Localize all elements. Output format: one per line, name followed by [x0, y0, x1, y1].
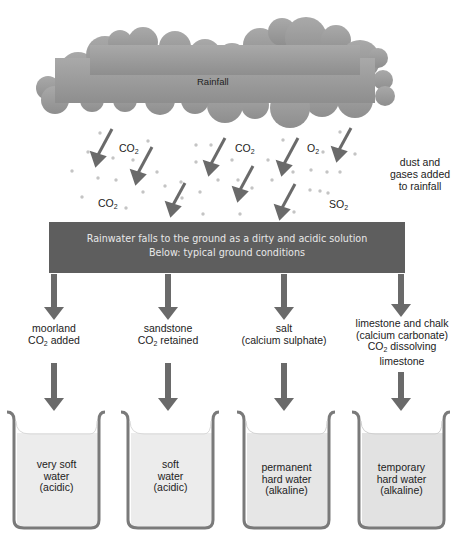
side-note: dust and gases added to rainfall — [380, 156, 458, 192]
ground-label-line: sandstone — [128, 322, 208, 334]
cloud-label: Rainfall — [197, 76, 229, 87]
beaker-label-line: (alkaline) — [244, 485, 329, 497]
ground-label-line: limestone and chalk — [346, 318, 458, 330]
beaker-label-line: very soft — [14, 459, 99, 471]
ground-label-line: CO2 retained — [128, 334, 208, 350]
beaker-label-line: temporary — [359, 462, 444, 474]
ground-label-line: moorland — [14, 322, 94, 334]
ground-label-line: CO2 dissolving — [346, 341, 458, 356]
ground-label-limestone: limestone and chalk (calcium carbonate) … — [346, 318, 458, 367]
ground-label-line: (calcium sulphate) — [234, 334, 334, 346]
gas-label-o2: O2 — [307, 142, 319, 155]
beaker-label-soft: soft water (acidic) — [128, 459, 213, 494]
beaker-label-line: (alkaline) — [359, 485, 444, 497]
ground-label-moorland: moorland CO2 added — [14, 322, 94, 350]
gas-label-co2-1: CO2 — [119, 142, 139, 155]
side-note-line: to rainfall — [380, 180, 458, 192]
ground-label-line: salt — [234, 322, 334, 334]
side-note-line: gases added — [380, 168, 458, 180]
beaker-label-line: soft — [128, 459, 213, 471]
beaker-label-line: permanent — [244, 462, 329, 474]
gas-label-co2-3: CO2 — [98, 197, 118, 210]
ground-label-salt: salt (calcium sulphate) — [234, 322, 334, 346]
beaker-label-permanent-hard: permanent hard water (alkaline) — [244, 462, 329, 497]
gas-label-so2: SO2 — [329, 198, 348, 211]
beaker-label-temporary-hard: temporary hard water (alkaline) — [359, 462, 444, 497]
beaker-label-very-soft: very soft water (acidic) — [14, 459, 99, 494]
beaker-label-line: (acidic) — [128, 482, 213, 494]
ground-label-line: CO2 added — [14, 334, 94, 350]
ground-label-line: limestone — [346, 356, 458, 368]
down-arrows-bottom — [44, 363, 411, 411]
info-banner: Rainwater falls to the ground as a dirty… — [49, 222, 405, 273]
banner-line-2: Below: typical ground conditions — [49, 247, 405, 258]
beaker-label-line: (acidic) — [14, 482, 99, 494]
banner-line-1: Rainwater falls to the ground as a dirty… — [49, 233, 405, 244]
gas-label-co2-2: CO2 — [235, 142, 255, 155]
side-note-line: dust and — [380, 156, 458, 168]
ground-label-sandstone: sandstone CO2 retained — [128, 322, 208, 350]
down-arrows-top — [44, 274, 411, 320]
